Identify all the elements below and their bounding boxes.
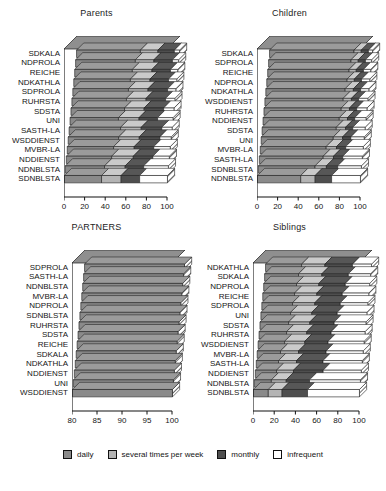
bar-face bbox=[326, 344, 370, 351]
bar-face bbox=[79, 315, 186, 322]
bar-face bbox=[64, 175, 101, 182]
y-tick-label: NDDIENST bbox=[208, 370, 249, 378]
bar-face bbox=[257, 168, 307, 175]
y-tick-label: WSDDIENST bbox=[205, 98, 253, 106]
plot-area bbox=[257, 36, 386, 203]
x-tick-label: 0 bbox=[251, 417, 255, 425]
x-tick-label: 80 bbox=[333, 417, 342, 425]
panel-title: Parents bbox=[0, 8, 193, 18]
y-tick-label: REICHE bbox=[223, 69, 253, 77]
legend-swatch-icon bbox=[63, 450, 72, 459]
bar-face bbox=[253, 389, 268, 396]
x-tick-label: 40 bbox=[294, 203, 303, 211]
y-tick-label: SASTH-LA bbox=[214, 156, 253, 164]
panel-title: PARTNERS bbox=[0, 222, 193, 232]
y-tick-label: SDSTA bbox=[34, 108, 60, 116]
y-tick-label: SDNBLSTA bbox=[26, 312, 68, 320]
bar-face bbox=[323, 353, 369, 360]
x-tick-label: 60 bbox=[314, 203, 323, 211]
y-tick-label: RUHRSTA bbox=[22, 98, 60, 106]
y-tick-label: NDNBLSTA bbox=[18, 166, 60, 174]
y-tick-label: SDPROLA bbox=[30, 264, 68, 272]
bar-face bbox=[65, 159, 111, 166]
y-tick-label: SDKALA bbox=[217, 273, 249, 281]
y-tick-label: NDKATHLA bbox=[18, 79, 60, 87]
x-tick-label: 95 bbox=[143, 417, 152, 425]
y-tick-label: SASTH-LA bbox=[29, 273, 68, 281]
figure-legend: dailyseveral times per weekmonthlyinfreq… bbox=[0, 450, 386, 459]
plot-area bbox=[64, 36, 196, 203]
y-tick-label: RUHRSTA bbox=[30, 322, 68, 330]
y-tick-label: SASTH-LA bbox=[21, 127, 60, 135]
bar-face bbox=[264, 101, 348, 108]
y-tick-label: UNI bbox=[46, 117, 60, 125]
bar-face bbox=[75, 353, 182, 360]
y-tick-label: NDPROLA bbox=[214, 79, 253, 87]
legend-item-several-times-per-week: several times per week bbox=[108, 450, 204, 459]
bar-face bbox=[308, 389, 360, 396]
bar-face bbox=[266, 82, 352, 89]
bar-face bbox=[78, 324, 185, 331]
legend-item-infrequent: infrequent bbox=[273, 450, 323, 459]
bar-face bbox=[262, 120, 343, 127]
x-tick-label: 40 bbox=[101, 203, 110, 211]
x-tick-label: 80 bbox=[68, 417, 77, 425]
bar-face bbox=[102, 175, 122, 182]
x-tick-label: 90 bbox=[118, 417, 127, 425]
y-tick-label: MVBR-LA bbox=[24, 146, 60, 154]
y-tick-label: MVBR-LA bbox=[217, 146, 253, 154]
bar-face bbox=[76, 344, 183, 351]
y-tick-label: NDKATHLA bbox=[207, 264, 249, 272]
bar-face bbox=[261, 130, 340, 137]
bar-face bbox=[72, 389, 172, 396]
bar-face bbox=[74, 72, 138, 79]
y-tick-label: UNI bbox=[235, 312, 249, 320]
y-tick-label: SASTH-LA bbox=[210, 360, 249, 368]
y-tick-label: SDKALA bbox=[36, 351, 68, 359]
bar-face bbox=[260, 139, 333, 146]
chart-panel-children: ChildrenSDKALASDPROLAREICHENDPROLANDKATH… bbox=[193, 8, 386, 208]
x-tick-label: 20 bbox=[80, 203, 89, 211]
x-tick-label: 0 bbox=[62, 203, 66, 211]
y-tick-label: WSDDIENST bbox=[20, 389, 68, 397]
bar-face bbox=[71, 101, 132, 108]
y-tick-label: UNI bbox=[239, 137, 253, 145]
y-tick-label: SDSTA bbox=[223, 322, 249, 330]
legend-swatch-icon bbox=[108, 450, 117, 459]
bar-face bbox=[82, 286, 189, 293]
bar-face bbox=[69, 120, 128, 127]
x-tick-label: 100 bbox=[160, 203, 173, 211]
bar-face bbox=[268, 389, 282, 396]
bar-face bbox=[80, 305, 187, 312]
legend-item-daily: daily bbox=[63, 450, 93, 459]
y-tick-label: SDSTA bbox=[42, 331, 68, 339]
bar-face bbox=[323, 363, 368, 370]
bar-face bbox=[67, 139, 121, 146]
bar-face bbox=[263, 110, 346, 117]
y-tick-label: NDNBLSTA bbox=[207, 380, 249, 388]
plot-area bbox=[72, 250, 201, 417]
y-tick-label: NDPROLA bbox=[210, 283, 249, 291]
legend-swatch-icon bbox=[273, 450, 282, 459]
y-tick-label: SDKALA bbox=[221, 50, 253, 58]
x-tick-label: 100 bbox=[353, 203, 366, 211]
x-tick-label: 60 bbox=[121, 203, 130, 211]
bar-face bbox=[74, 363, 181, 370]
x-tick-label: 40 bbox=[291, 417, 300, 425]
bar-face bbox=[121, 175, 140, 182]
bar-face bbox=[332, 175, 361, 182]
bar-face bbox=[315, 175, 331, 182]
y-tick-label: SDKALA bbox=[28, 50, 60, 58]
y-tick-label: NDPROLA bbox=[29, 302, 68, 310]
bar-face bbox=[83, 276, 190, 283]
y-tick-label: NDNBLSTA bbox=[211, 175, 253, 183]
y-tick-label: SDNBLSTA bbox=[207, 389, 249, 397]
bar-face bbox=[308, 382, 367, 389]
y-tick-label: RUHRSTA bbox=[215, 108, 253, 116]
y-tick-label: NDPROLA bbox=[21, 59, 60, 67]
bar-face bbox=[328, 334, 371, 341]
y-tick-label: SDNBLSTA bbox=[18, 175, 60, 183]
y-tick-label: REICHE bbox=[38, 341, 68, 349]
bar-face bbox=[334, 315, 373, 322]
y-tick-label: NDNBLSTA bbox=[26, 283, 68, 291]
